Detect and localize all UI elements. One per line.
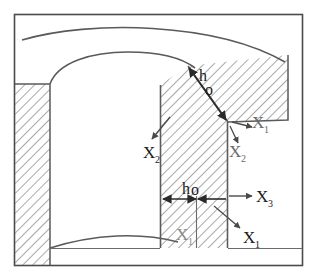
outer-arc-upper — [22, 28, 285, 62]
x1-lower-right-subscript: 1 — [255, 239, 260, 250]
x2-corner-leader-line — [230, 126, 238, 143]
h-nought-horizontal-subscript: o — [191, 181, 199, 198]
x1-corner-letter: X — [252, 113, 264, 132]
h-nought-horizontal-letter: h — [182, 180, 190, 197]
x1-column-bottom-subscript: 1 — [188, 236, 193, 247]
x1-column-bottom-letter: X — [176, 225, 188, 244]
x1-corner-subscript: 1 — [264, 124, 269, 135]
outer-border — [15, 15, 303, 266]
x3-right-subscript: 3 — [268, 198, 273, 209]
x3-right-letter: X — [256, 187, 268, 206]
left-wall-hatched — [15, 84, 50, 265]
x2-left-letter: X — [143, 143, 155, 162]
x2-corner-subscript: 2 — [241, 153, 246, 164]
figure-container: h o h o X 2 X 1 X 2 X 3 X 1 X 1 — [0, 0, 317, 279]
cross-section-diagram: h o h o X 2 X 1 X 2 X 3 X 1 X 1 — [0, 0, 317, 279]
x2-corner-letter: X — [229, 142, 241, 161]
x2-left-subscript: 2 — [155, 154, 160, 165]
x1-corner-leader-line — [232, 122, 252, 127]
bottom-arc — [50, 236, 178, 248]
h-nought-diagonal-subscript: o — [205, 81, 213, 98]
x1-lower-right-letter: X — [243, 228, 255, 247]
